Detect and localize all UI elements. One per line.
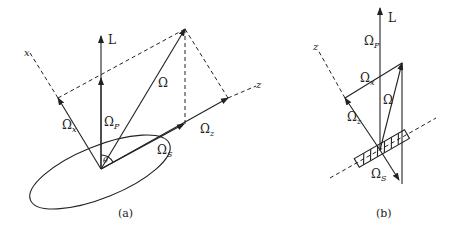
label-omega-z: Ω: [200, 122, 210, 136]
label-omega-s-b: Ω: [371, 167, 381, 181]
rod-axis-dashed: [330, 118, 436, 178]
label-l: L: [108, 33, 116, 47]
label-axis-x: x: [24, 47, 30, 58]
label-theta: θ: [103, 156, 108, 165]
label-omega-x-b: Ω: [360, 71, 370, 85]
label-omega-s: Ω: [157, 143, 167, 157]
x-axis-dashed: [30, 53, 58, 98]
z-axis-dashed: [228, 86, 256, 98]
label-omega-p-b: Ω: [364, 34, 374, 48]
label-omega-s-sub-b: S: [381, 174, 387, 183]
label-omega-z-sub: z: [209, 129, 215, 138]
caption-b: (b): [376, 207, 392, 220]
label-omega-x-sub-b: x: [370, 78, 375, 87]
label-omega-x: Ω: [62, 118, 72, 132]
label-omega-p-sub: P: [113, 122, 120, 131]
label-axis-z-b: z: [312, 41, 319, 52]
omega-z-vector-b: [345, 98, 380, 150]
panel-b: L Ω P Ω x Ω Ω z Ω S z (b): [312, 8, 436, 220]
omega-vector: [101, 29, 185, 169]
label-omega-x-sub: x: [72, 125, 77, 134]
label-omega-p: Ω: [104, 115, 114, 129]
label-omega-b: Ω: [383, 93, 393, 107]
label-omega-z-b: Ω: [347, 110, 357, 124]
omega-x-vector: [58, 98, 101, 169]
panel-a: L Ω Ω P Ω x Ω z Ω S θ x z (a): [21, 29, 262, 224]
label-l-b: L: [388, 11, 396, 25]
label-omega: Ω: [158, 76, 168, 90]
precession-diagram: L Ω Ω P Ω x Ω z Ω S θ x z (a): [0, 0, 460, 230]
label-omega-p-sub-b: P: [373, 41, 380, 50]
label-omega-s-sub: S: [167, 150, 173, 159]
label-omega-z-sub-b: z: [356, 117, 362, 126]
z-axis-dashed-b: [318, 50, 345, 98]
caption-a: (a): [118, 207, 133, 220]
disk-ellipse: [21, 120, 180, 224]
proj-z-dashed: [185, 29, 228, 98]
label-axis-z: z: [255, 79, 262, 90]
